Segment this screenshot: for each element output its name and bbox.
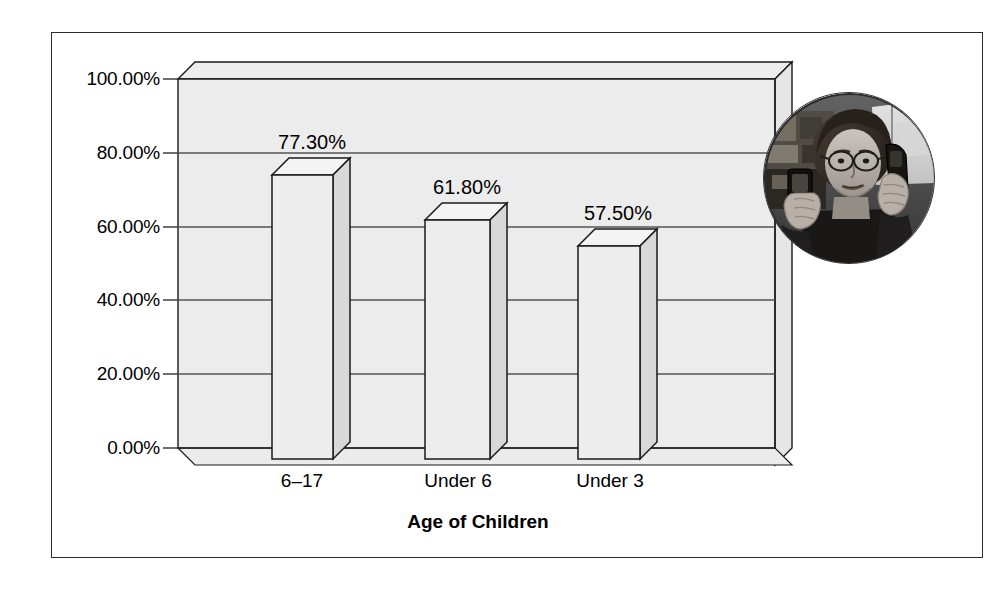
plot-top-face	[178, 62, 792, 79]
bar-6-17-side-face	[333, 158, 350, 459]
ytick-label-0: 0.00%	[0, 437, 160, 459]
value-label-6-17: 77.30%	[232, 131, 392, 154]
figure-container: 100.00% 80.00% 60.00% 40.00% 20.00% 0.00…	[0, 0, 1007, 591]
ytick-label-60: 60.00%	[0, 216, 160, 238]
bar-3d-under-6	[425, 203, 507, 459]
bar-chart: 100.00% 80.00% 60.00% 40.00% 20.00% 0.00…	[0, 0, 1007, 591]
bar-3d-under-3	[578, 229, 657, 459]
ytick-label-100: 100.00%	[0, 68, 160, 90]
xtick-label-6-17: 6–17	[222, 470, 382, 492]
ytick-label-40: 40.00%	[0, 289, 160, 311]
bar-under-6-front-face	[425, 220, 490, 459]
xtick-label-under-3: Under 3	[530, 470, 690, 492]
ytick-label-80: 80.00%	[0, 142, 160, 164]
bar-3d-6-17	[272, 158, 350, 459]
xtick-label-under-6: Under 6	[378, 470, 538, 492]
value-label-under-3: 57.50%	[538, 202, 698, 225]
bar-under-3-side-face	[640, 229, 657, 459]
ytick-label-20: 20.00%	[0, 363, 160, 385]
value-label-under-6: 61.80%	[387, 176, 547, 199]
x-axis-title: Age of Children	[278, 511, 678, 533]
bar-under-3-front-face	[578, 246, 640, 459]
bar-6-17-front-face	[272, 175, 333, 459]
bar-under-6-side-face	[490, 203, 507, 459]
woman-with-two-phones-photo	[763, 92, 935, 264]
